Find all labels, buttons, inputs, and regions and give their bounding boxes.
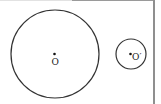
label-o: O [52, 57, 59, 67]
figure-frame: O O′ [0, 0, 161, 104]
label-o-prime: O′ [132, 52, 141, 62]
circles-diagram: O O′ [0, 0, 161, 104]
large-circle-center-dot [53, 53, 56, 56]
